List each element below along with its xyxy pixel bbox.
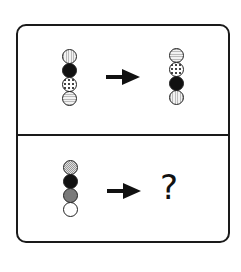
ball-horizontal-stripes [169, 48, 184, 63]
ball-white [63, 202, 78, 217]
ball-black [62, 63, 77, 78]
ball-vertical-stripes [169, 90, 184, 105]
ball-black [169, 76, 184, 91]
ball-dots [169, 62, 184, 77]
ball-horizontal-stripes [62, 91, 77, 106]
answer-question-mark: ? [160, 170, 178, 204]
ball-light-checkered [63, 160, 78, 175]
ball-grey [63, 188, 78, 203]
row-divider [18, 134, 228, 136]
right-arrow-icon [107, 183, 141, 199]
puzzle-frame [16, 24, 230, 243]
ball-black [63, 174, 78, 189]
ball-vertical-stripes [62, 49, 77, 64]
ball-dots [62, 77, 77, 92]
right-arrow-icon [106, 69, 140, 85]
